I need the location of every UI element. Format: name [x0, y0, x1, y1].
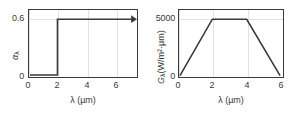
y-tick-label-right-5000: 5000	[148, 13, 175, 23]
chart-panel-spectral-irradiation: Gλ(W/m²·µm) 5000 0 0 2 4 6 λ (µm)	[145, 0, 289, 114]
x-tick-label-right-4: 4	[240, 80, 254, 90]
y-tick-label-left-0.6: 0.6	[0, 13, 24, 23]
x-tick-label-right-0: 0	[171, 80, 185, 90]
series-g-lambda	[179, 10, 283, 77]
chart-panel-spectral-absorptivity: αλ 0.6 0 0 2 4 6 λ (µm)	[0, 0, 145, 114]
series-alpha-lambda	[29, 10, 137, 77]
x-tick-label-left-4: 4	[80, 80, 94, 90]
y-axis-label-left-symbol: α	[10, 55, 20, 60]
plot-area-left	[28, 9, 138, 78]
x-tick-label-left-2: 2	[50, 80, 64, 90]
plot-area-right	[178, 9, 284, 78]
series-line-g-lambda	[180, 19, 280, 75]
figure-two-spectral-plots: αλ 0.6 0 0 2 4 6 λ (µm) Gλ(W/m²·µm)	[0, 0, 289, 114]
x-tick-label-left-6: 6	[109, 80, 123, 90]
x-tick-label-left-0: 0	[21, 80, 35, 90]
x-tick-label-right-6: 6	[274, 80, 288, 90]
y-axis-label-left: αλ	[10, 51, 20, 60]
x-axis-label-left: λ (µm)	[28, 95, 138, 105]
y-axis-label-right-units: (W/m²·µm)	[156, 30, 166, 73]
continuation-arrow-icon	[131, 15, 137, 23]
series-line-alpha-lambda	[30, 19, 131, 75]
x-tick-label-right-2: 2	[205, 80, 219, 90]
x-axis-label-right: λ (µm)	[178, 95, 284, 105]
y-axis-label-left-subscript: λ	[13, 51, 20, 55]
